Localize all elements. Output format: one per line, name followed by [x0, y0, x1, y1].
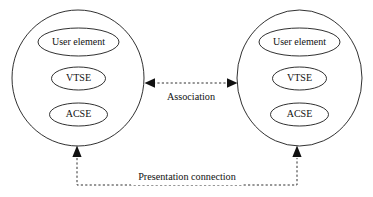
left-acse-node[interactable]: ACSE	[50, 103, 108, 126]
presentation-connection-arrowhead-right	[292, 146, 301, 158]
presentation-connection-connector[interactable]: Presentation connection	[72, 146, 301, 186]
association-arrowhead-left	[145, 78, 156, 88]
presentation-connection-arrowhead-left	[72, 146, 81, 158]
right-acse-node[interactable]: ACSE	[271, 103, 329, 126]
presentation-connection-label: Presentation connection	[138, 171, 236, 182]
right-vtse-node[interactable]: VTSE	[273, 67, 327, 90]
left-user-element-node[interactable]: User element	[38, 28, 119, 56]
association-connector[interactable]: Association	[145, 78, 238, 102]
right-acse-label: ACSE	[287, 108, 313, 119]
right-system[interactable]: User element VTSE ACSE	[237, 10, 362, 146]
left-user-element-label: User element	[52, 36, 105, 47]
right-vtse-label: VTSE	[287, 72, 312, 83]
association-arrowhead-right	[227, 78, 238, 88]
left-system[interactable]: User element VTSE ACSE	[12, 10, 144, 146]
left-acse-label: ACSE	[66, 108, 92, 119]
left-vtse-label: VTSE	[66, 72, 91, 83]
diagram-svg: User element VTSE ACSE User element VTSE	[0, 0, 373, 197]
right-user-element-node[interactable]: User element	[259, 28, 340, 56]
right-user-element-label: User element	[273, 36, 326, 47]
left-vtse-node[interactable]: VTSE	[52, 67, 106, 90]
diagram-canvas: User element VTSE ACSE User element VTSE	[0, 0, 373, 197]
association-label: Association	[167, 91, 215, 102]
